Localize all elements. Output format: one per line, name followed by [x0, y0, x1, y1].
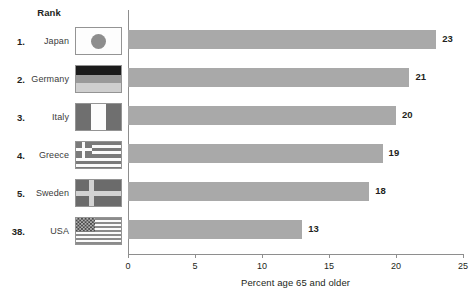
table-row: 38. USA [0, 212, 125, 250]
bar-italy [128, 106, 396, 125]
bar-germany [128, 68, 409, 87]
bar-japan [128, 30, 436, 49]
usa-stripe [76, 234, 121, 236]
germany-black-band [76, 66, 121, 75]
country-label: Sweden [28, 188, 75, 198]
x-axis-tick [396, 254, 397, 258]
bar-usa [128, 220, 302, 239]
greece-cross-horizontal [76, 148, 92, 151]
rank-value: 3. [0, 112, 28, 123]
chart-page: Rank 1. Japan 2. Germany 3. Italy [0, 0, 471, 300]
italy-red-band [106, 104, 121, 130]
rank-column-header: Rank [28, 7, 70, 18]
x-axis-title: Percent age 65 and older [128, 277, 463, 288]
usa-stripe [76, 238, 121, 240]
country-label: Japan [28, 36, 75, 46]
x-tick-label: 0 [125, 261, 130, 271]
flag-greece-icon [75, 141, 122, 169]
bar-value-label: 23 [442, 33, 453, 44]
flag-usa-icon [75, 217, 122, 245]
bar-greece [128, 144, 383, 163]
rank-value: 2. [0, 74, 28, 85]
bar-value-label: 21 [415, 71, 426, 82]
bar-chart-plot-area: 0 5 10 15 20 25 23 21 20 19 18 13 Percen… [128, 0, 471, 300]
bar-value-label: 19 [389, 147, 400, 158]
x-axis-tick [262, 254, 263, 258]
x-tick-label: 10 [257, 261, 267, 271]
x-axis-tick [329, 254, 330, 258]
usa-star-canton [76, 218, 95, 232]
greece-stripe [76, 164, 121, 167]
sweden-cross-horizontal [76, 191, 121, 196]
flag-japan-icon [75, 27, 122, 55]
germany-red-band [76, 75, 121, 84]
italy-green-band [76, 104, 91, 130]
x-axis-tick [128, 254, 129, 258]
table-row: 2. Germany [0, 60, 125, 98]
italy-white-band [91, 104, 106, 130]
table-row: 4. Greece [0, 136, 125, 174]
bar-value-label: 18 [375, 185, 386, 196]
sweden-cross-vertical [89, 180, 94, 206]
country-label: Germany [28, 74, 75, 84]
rank-value: 4. [0, 150, 28, 161]
rank-value: 5. [0, 188, 28, 199]
x-axis-tick [463, 254, 464, 258]
table-row: 1. Japan [0, 22, 125, 60]
flag-sweden-icon [75, 179, 122, 207]
x-tick-label: 5 [192, 261, 197, 271]
japan-sun-disc [91, 34, 106, 49]
rank-value: 1. [0, 36, 28, 47]
greece-stripe [76, 158, 121, 161]
flag-italy-icon [75, 103, 122, 131]
country-label: USA [28, 226, 75, 236]
flag-germany-icon [75, 65, 122, 93]
x-tick-label: 20 [391, 261, 401, 271]
bar-sweden [128, 182, 369, 201]
rank-table: Rank 1. Japan 2. Germany 3. Italy [0, 0, 125, 300]
bar-value-label: 13 [308, 223, 319, 234]
x-tick-label: 25 [458, 261, 468, 271]
x-tick-label: 15 [324, 261, 334, 271]
germany-gold-band [76, 83, 121, 92]
x-axis-tick [195, 254, 196, 258]
x-axis-line [128, 254, 463, 255]
bar-value-label: 20 [402, 109, 413, 120]
rank-value: 38. [0, 226, 28, 237]
country-label: Greece [28, 150, 75, 160]
country-label: Italy [28, 112, 75, 122]
usa-stripe [76, 242, 121, 244]
table-row: 3. Italy [0, 98, 125, 136]
table-row: 5. Sweden [0, 174, 125, 212]
